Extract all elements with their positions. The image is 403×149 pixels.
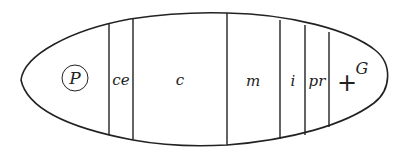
region-ce-label: ce [112, 71, 129, 89]
region-i-label: i [291, 72, 296, 90]
region-m-label: m [246, 72, 260, 90]
region-pr-label: pr [309, 72, 327, 90]
region-c-label: c [176, 71, 185, 89]
region-g-plus-symbol: + [337, 69, 357, 97]
region-p-label: P [68, 68, 81, 88]
segmented-ellipse-diagram: P ce c m i pr + G [0, 0, 403, 149]
region-g-superscript: G [356, 59, 369, 78]
